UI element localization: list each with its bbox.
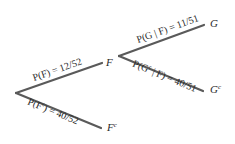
- edge-label-Fc: P(Fc) = 40/52: [26, 96, 80, 128]
- node-Gc: Gc: [210, 83, 222, 95]
- node-Fc: Fc: [106, 121, 118, 133]
- probability-tree-diagram: P(F) = 12/52 P(Fc) = 40/52 P(G | F) = 11…: [0, 0, 235, 144]
- edge-label-Gc-given-F: P(Gc | F) = 40/51: [131, 58, 198, 95]
- node-F: F: [105, 56, 113, 68]
- node-G: G: [210, 17, 218, 29]
